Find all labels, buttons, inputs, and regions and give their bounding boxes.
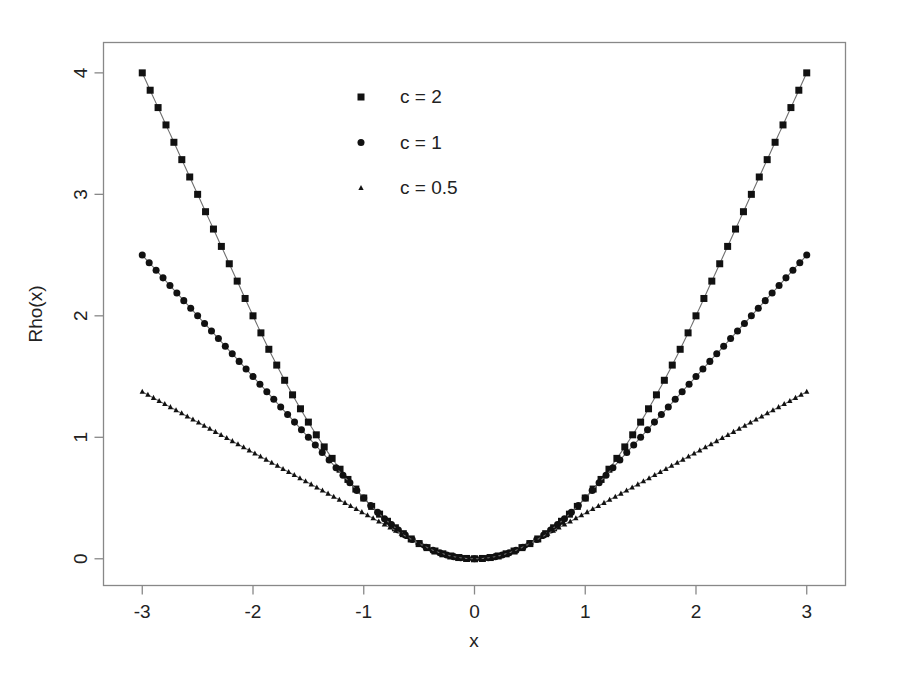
x-tick-label: -1 bbox=[355, 601, 372, 622]
marker-square bbox=[795, 87, 802, 94]
marker-circle bbox=[153, 267, 160, 274]
marker-square bbox=[147, 87, 154, 94]
x-tick-label: -2 bbox=[245, 601, 262, 622]
marker-circle bbox=[319, 449, 326, 456]
y-tick-label: 1 bbox=[71, 432, 92, 443]
marker-circle bbox=[665, 403, 672, 410]
marker-circle bbox=[305, 434, 312, 441]
marker-circle bbox=[568, 509, 575, 516]
marker-circle bbox=[374, 509, 381, 516]
marker-square bbox=[772, 139, 779, 146]
marker-circle bbox=[249, 373, 256, 380]
marker-circle bbox=[748, 312, 755, 319]
marker-square bbox=[202, 208, 209, 215]
marker-square bbox=[186, 173, 193, 180]
marker-circle bbox=[298, 426, 305, 433]
marker-circle bbox=[194, 312, 201, 319]
marker-circle bbox=[741, 320, 748, 327]
marker-square bbox=[669, 362, 676, 369]
marker-circle bbox=[720, 343, 727, 350]
marker-circle bbox=[776, 282, 783, 289]
legend-label: c = 1 bbox=[400, 132, 442, 153]
marker-square bbox=[700, 295, 707, 302]
marker-circle bbox=[312, 441, 319, 448]
marker-circle bbox=[270, 396, 277, 403]
marker-circle bbox=[734, 327, 741, 334]
marker-circle bbox=[173, 290, 180, 297]
marker-circle bbox=[651, 419, 658, 426]
x-tick-label: 3 bbox=[801, 601, 812, 622]
marker-circle bbox=[360, 495, 367, 502]
marker-square bbox=[637, 419, 644, 426]
marker-circle bbox=[762, 297, 769, 304]
marker-circle bbox=[201, 320, 208, 327]
marker-circle bbox=[623, 449, 630, 456]
marker-square bbox=[748, 191, 755, 198]
marker-circle bbox=[353, 487, 360, 494]
marker-square bbox=[210, 226, 217, 233]
marker-circle bbox=[263, 388, 270, 395]
marker-circle bbox=[236, 358, 243, 365]
marker-circle bbox=[699, 365, 706, 372]
marker-circle bbox=[796, 259, 803, 266]
marker-circle bbox=[357, 139, 364, 146]
plot-background bbox=[0, 0, 897, 676]
marker-circle bbox=[727, 335, 734, 342]
marker-square bbox=[257, 329, 264, 336]
marker-circle bbox=[637, 434, 644, 441]
marker-square bbox=[265, 346, 272, 353]
marker-circle bbox=[243, 365, 250, 372]
marker-square bbox=[803, 69, 810, 76]
marker-circle bbox=[367, 502, 374, 509]
marker-circle bbox=[755, 305, 762, 312]
marker-circle bbox=[803, 252, 810, 259]
marker-square bbox=[273, 362, 280, 369]
marker-square bbox=[716, 260, 723, 267]
marker-square bbox=[234, 278, 241, 285]
marker-circle bbox=[561, 515, 568, 522]
marker-square bbox=[178, 156, 185, 163]
marker-circle bbox=[616, 457, 623, 464]
x-tick-label: 2 bbox=[691, 601, 702, 622]
marker-square bbox=[170, 139, 177, 146]
legend-label: c = 0.5 bbox=[400, 177, 458, 198]
marker-square bbox=[629, 431, 636, 438]
marker-circle bbox=[333, 464, 340, 471]
marker-square bbox=[358, 94, 365, 101]
marker-circle bbox=[686, 381, 693, 388]
marker-square bbox=[740, 208, 747, 215]
marker-circle bbox=[208, 327, 215, 334]
marker-circle bbox=[644, 426, 651, 433]
marker-square bbox=[281, 377, 288, 384]
marker-circle bbox=[782, 274, 789, 281]
marker-circle bbox=[672, 396, 679, 403]
marker-square bbox=[724, 243, 731, 250]
marker-square bbox=[645, 405, 652, 412]
marker-circle bbox=[575, 502, 582, 509]
y-axis-title: Rho(x) bbox=[25, 285, 46, 342]
marker-square bbox=[653, 391, 660, 398]
marker-square bbox=[787, 104, 794, 111]
marker-circle bbox=[658, 411, 665, 418]
marker-square bbox=[685, 329, 692, 336]
marker-circle bbox=[229, 350, 236, 357]
marker-square bbox=[313, 431, 320, 438]
y-tick-label: 0 bbox=[71, 553, 92, 564]
marker-circle bbox=[692, 373, 699, 380]
marker-circle bbox=[713, 350, 720, 357]
y-tick-label: 4 bbox=[71, 67, 92, 78]
legend-label: c = 2 bbox=[400, 86, 442, 107]
marker-square bbox=[162, 121, 169, 128]
x-tick-label: 0 bbox=[469, 601, 480, 622]
marker-circle bbox=[596, 479, 603, 486]
marker-square bbox=[708, 278, 715, 285]
marker-circle bbox=[346, 479, 353, 486]
marker-circle bbox=[256, 381, 263, 388]
x-tick-label: -3 bbox=[134, 601, 151, 622]
marker-square bbox=[155, 104, 162, 111]
marker-square bbox=[780, 121, 787, 128]
huber-loss-plot: -3-2-10123 01234 c = 2c = 1c = 0.5 x Rho… bbox=[0, 0, 897, 676]
marker-square bbox=[250, 312, 257, 319]
y-tick-label: 3 bbox=[71, 189, 92, 200]
x-tick-label: 1 bbox=[580, 601, 591, 622]
